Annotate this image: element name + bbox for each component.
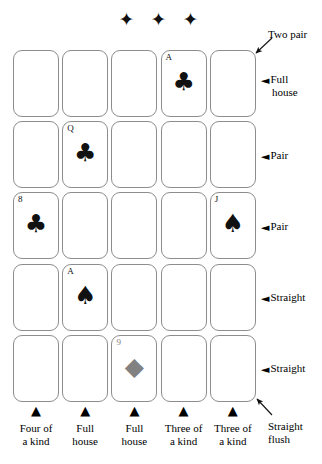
card-rank: 8 xyxy=(18,194,23,205)
card-blank[interactable] xyxy=(13,264,59,331)
card-blank[interactable] xyxy=(62,335,108,402)
label-two-pair: Two pair xyxy=(268,28,307,41)
card-a-of-spades[interactable]: A♠ xyxy=(62,264,108,331)
label-pair-row2: ◄Pair xyxy=(261,149,288,162)
label-full-house-row1: ◄Full house xyxy=(261,73,307,99)
spades-suit-icon: ♠ xyxy=(63,282,107,309)
card-blank[interactable] xyxy=(210,335,256,402)
column-label-line2: house xyxy=(72,435,98,447)
up-arrow-icon: ▲ xyxy=(30,404,42,417)
label-straight-flush-line2: flush xyxy=(268,433,290,445)
card-blank[interactable] xyxy=(161,192,207,259)
clubs-suit-icon: ♣ xyxy=(63,139,107,166)
label-full-house-line2: house xyxy=(272,86,298,98)
poker-hand-grid-figure: ✦ ✦ ✦ A♣Q♣8♣J♠A♠9◆ Two pair ◄Full house … xyxy=(0,0,322,464)
label-straight-row5-text: Straight xyxy=(270,362,305,374)
label-pair-row3-text: Pair xyxy=(270,220,288,232)
card-blank[interactable] xyxy=(13,335,59,402)
left-arrow-icon: ◄ xyxy=(261,75,269,86)
label-straight-row4: ◄Straight xyxy=(261,291,305,304)
card-8-of-clubs[interactable]: 8♣ xyxy=(13,192,59,259)
label-full-house-line1: Full xyxy=(270,73,288,85)
label-pair-row3: ◄Pair xyxy=(261,220,288,233)
card-blank[interactable] xyxy=(111,192,157,259)
card-rank: 9 xyxy=(116,337,121,348)
card-blank[interactable] xyxy=(161,121,207,188)
up-arrow-icon: ▲ xyxy=(79,404,91,417)
three-diamond-ornament: ✦ ✦ ✦ xyxy=(0,8,322,30)
card-blank[interactable] xyxy=(210,121,256,188)
card-blank[interactable] xyxy=(161,335,207,402)
card-blank[interactable] xyxy=(62,192,108,259)
clubs-suit-icon: ♣ xyxy=(14,210,58,237)
column-label-line1: Four of xyxy=(20,422,53,434)
card-rank: J xyxy=(215,194,219,205)
left-arrow-icon: ◄ xyxy=(261,151,269,162)
card-blank[interactable] xyxy=(111,50,157,117)
column-label-line1: Full xyxy=(76,422,94,434)
card-9-of-diamonds[interactable]: 9◆ xyxy=(111,335,157,402)
card-rank: A xyxy=(67,266,74,277)
column-label-line1: Three of xyxy=(165,422,203,434)
card-blank[interactable] xyxy=(111,264,157,331)
label-straight-row5: ◄Straight xyxy=(261,362,305,375)
left-arrow-icon: ◄ xyxy=(261,222,269,233)
card-rank: A xyxy=(166,52,173,63)
card-grid: A♣Q♣8♣J♠A♠9◆ xyxy=(13,50,258,453)
label-straight-row4-text: Straight xyxy=(270,291,305,303)
card-blank[interactable] xyxy=(111,121,157,188)
card-blank[interactable] xyxy=(210,264,256,331)
column-label-line2: house xyxy=(122,435,148,447)
column-label-line2: a kind xyxy=(219,435,246,447)
spades-suit-icon: ♠ xyxy=(211,210,255,237)
column-label-line1: Three of xyxy=(214,422,252,434)
left-arrow-icon: ◄ xyxy=(261,364,269,375)
clubs-suit-icon: ♣ xyxy=(162,68,206,95)
column-label-line2: a kind xyxy=(22,435,49,447)
column-label-col5: Three ofa kind xyxy=(203,422,263,448)
card-j-of-spades[interactable]: J♠ xyxy=(210,192,256,259)
card-q-of-clubs[interactable]: Q♣ xyxy=(62,121,108,188)
card-rank: Q xyxy=(67,123,74,134)
card-blank[interactable] xyxy=(13,50,59,117)
card-a-of-clubs[interactable]: A♣ xyxy=(161,50,207,117)
label-pair-row2-text: Pair xyxy=(270,149,288,161)
diamonds-suit-icon: ◆ xyxy=(112,353,156,380)
left-arrow-icon: ◄ xyxy=(261,293,269,304)
up-arrow-icon: ▲ xyxy=(227,404,239,417)
column-label-line2: a kind xyxy=(170,435,197,447)
up-arrow-icon: ▲ xyxy=(128,404,140,417)
card-blank[interactable] xyxy=(13,121,59,188)
card-blank[interactable] xyxy=(161,264,207,331)
label-two-pair-text: Two pair xyxy=(268,28,307,40)
card-blank[interactable] xyxy=(210,50,256,117)
column-label-line1: Full xyxy=(126,422,144,434)
label-straight-flush-line1: Straight xyxy=(268,420,303,432)
label-straight-flush: Straight flush xyxy=(268,420,322,446)
up-arrow-icon: ▲ xyxy=(178,404,190,417)
card-blank[interactable] xyxy=(62,50,108,117)
straight-flush-arrow xyxy=(257,399,272,415)
